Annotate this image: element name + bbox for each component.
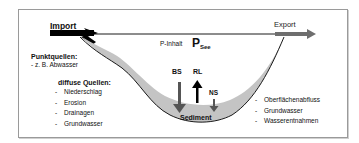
diffuse-item-label: Niederschlag bbox=[64, 88, 102, 95]
outputs-list: -Oberflächenabfluss -Grundwasser -Wasser… bbox=[255, 95, 320, 127]
import-label: Import bbox=[50, 22, 76, 31]
sediment-label: Sediment bbox=[180, 114, 212, 121]
rl-arrow-up-icon bbox=[192, 80, 203, 103]
p-see-symbol: PSee bbox=[192, 37, 211, 50]
bullet: - bbox=[55, 87, 64, 98]
point-source-item: - z. B. Abwasser bbox=[31, 62, 78, 69]
bullet: - bbox=[55, 108, 64, 119]
export-arrow-icon bbox=[275, 29, 316, 39]
list-item: -Oberflächenabfluss bbox=[255, 95, 320, 106]
diffuse-item-label: Grundwasser bbox=[64, 120, 103, 127]
bullet: - bbox=[55, 98, 64, 109]
p-symbol: P bbox=[192, 36, 200, 50]
export-label: Export bbox=[274, 21, 296, 29]
rl-flux-label: RL bbox=[193, 68, 202, 75]
diffuse-item-label: Erosion bbox=[64, 99, 86, 106]
list-item: -Grundwasser bbox=[55, 119, 103, 130]
list-item: -Niederschlag bbox=[55, 87, 103, 98]
bullet: - bbox=[55, 119, 64, 130]
diffuse-item-label: Drainagen bbox=[64, 109, 94, 116]
sediment-basin bbox=[82, 37, 284, 122]
output-item-label: Grundwasser bbox=[264, 107, 303, 114]
p-content-label: P-Inhalt bbox=[160, 41, 182, 48]
bullet: - bbox=[255, 106, 264, 117]
output-item-label: Wasserentnahmen bbox=[264, 117, 318, 124]
p-symbol-subscript: See bbox=[200, 44, 211, 50]
bullet: - bbox=[255, 116, 264, 127]
point-sources-heading: Punktquellen: bbox=[31, 53, 77, 60]
output-item-label: Oberflächenabfluss bbox=[264, 96, 320, 103]
list-item: -Drainagen bbox=[55, 108, 103, 119]
bs-flux-label: BS bbox=[172, 68, 182, 75]
ns-flux-label: NS bbox=[209, 90, 218, 97]
diffuse-sources-heading: diffuse Quellen: bbox=[58, 79, 111, 86]
list-item: -Erosion bbox=[55, 98, 103, 109]
bullet: - bbox=[255, 95, 264, 106]
list-item: -Wasserentnahmen bbox=[255, 116, 320, 127]
list-item: -Grundwasser bbox=[255, 106, 320, 117]
diffuse-sources-list: -Niederschlag -Erosion -Drainagen -Grund… bbox=[55, 87, 103, 129]
